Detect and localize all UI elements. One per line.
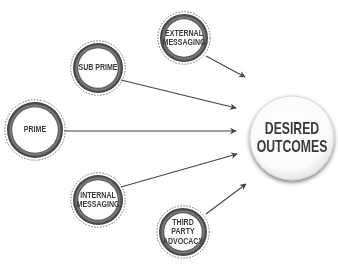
label-sub-prime: SUB PRIME xyxy=(77,54,119,82)
label-external-messaging: EXTERNALMESSAGING xyxy=(164,24,205,52)
label-prime: PRIME xyxy=(12,116,59,144)
label-line-2: MESSAGING xyxy=(163,38,206,47)
arrow-external-messaging-to-desired-outcomes xyxy=(206,56,245,77)
label-third-party-advocacy: THIRD PARTYADVOCACY xyxy=(163,218,204,246)
label-desired-outcomes: DESIREDOUTCOMES xyxy=(252,116,331,160)
label-line-1: DESIRED xyxy=(257,120,328,138)
label-line-2: ADVOCACY xyxy=(163,237,204,246)
arrow-internal-messaging-to-desired-outcomes xyxy=(121,154,237,187)
arrow-third-party-advocacy-to-desired-outcomes xyxy=(206,184,246,214)
label-line-2: MESSAGING xyxy=(77,200,120,209)
label-line-1: THIRD PARTY xyxy=(163,218,204,237)
label-line-2: OUTCOMES xyxy=(257,138,328,156)
label-line-1: SUB PRIME xyxy=(78,63,117,72)
arrow-sub-prime-to-desired-outcomes xyxy=(121,80,236,108)
label-line-1: PRIME xyxy=(24,125,46,134)
label-internal-messaging: INTERNALMESSAGING xyxy=(77,186,119,214)
